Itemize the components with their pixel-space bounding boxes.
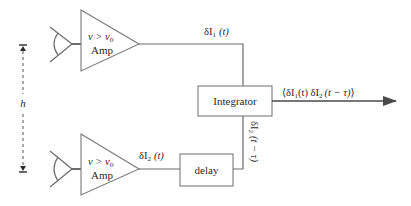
delayed-signal-label: δI2(t − τ) [247,121,260,162]
amplifier-2-label: Amp [91,169,114,181]
integrator-block: Integrator [198,86,272,116]
delayed-signal-wire [233,116,243,169]
signal-2-label: δI2(t) [139,150,164,163]
antenna-1-arm-bottom [50,44,72,62]
antenna-2 [50,151,81,187]
antenna-2-arm-top [50,151,72,169]
antenna-1 [50,27,81,62]
delay-label: delay [195,164,219,176]
baseline-indicator: h [19,45,27,172]
antenna-2-arc-icon [54,157,58,181]
arrow-down-icon [20,166,26,171]
amplifier-1-label: Amp [91,44,114,56]
signal-1-label: δI1(t) [204,26,229,39]
integrator-label: Integrator [213,95,257,107]
antenna-1-arm-top [50,27,72,44]
output-label: ⟨δI1(t) δI2(t − τ)⟩ [282,87,355,100]
baseline-label: h [20,97,26,109]
amplifier-1: v > vo Amp [81,10,139,71]
signal-1-wire [139,44,243,86]
delay-block: delay [180,154,233,186]
amplifier-2: v > vo Amp [81,134,139,195]
antenna-2-arm-bottom [50,169,72,187]
arrow-up-icon [20,46,26,51]
correlator-diagram: h v > vo Amp v > vo Amp δI1(t) δI2(t) de… [0,0,411,206]
antenna-1-arc-icon [54,33,58,55]
